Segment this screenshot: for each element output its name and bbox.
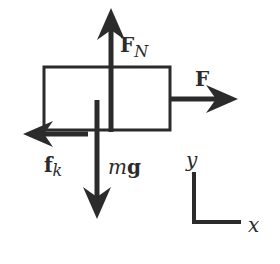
x-axis-label: x: [248, 213, 259, 237]
y-axis-label: y: [185, 148, 198, 172]
weight-arrow: [83, 100, 111, 219]
block: [44, 67, 170, 130]
normal-force-arrow: [97, 8, 125, 132]
friction-label: fk: [44, 153, 62, 180]
coordinate-axes: [192, 172, 241, 224]
free-body-diagram: FN F mg fk y x: [0, 0, 280, 264]
weight-label: mg: [108, 155, 141, 179]
normal-force-label: FN: [120, 33, 149, 61]
friction-arrow: [23, 121, 88, 147]
applied-force-label: F: [195, 67, 209, 91]
